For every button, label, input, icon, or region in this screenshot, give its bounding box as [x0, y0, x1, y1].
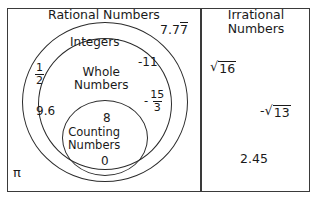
- panel-divider: [200, 8, 202, 192]
- value-neg15-3-fraction: 15 3: [149, 89, 165, 113]
- value-sqrt-sixteen-radicand: 16: [218, 61, 236, 76]
- value-sqrt-sixteen: √ 16: [210, 60, 236, 76]
- value-one-half: 1 2: [35, 62, 44, 86]
- value-negative-sqrt-thirteen-radicand: 13: [273, 105, 291, 120]
- label-irrational-numbers-line1: Irrational: [216, 8, 296, 22]
- label-counting-numbers: Counting Numbers: [68, 126, 120, 151]
- value-7p7-whole: 7.7: [160, 22, 180, 37]
- value-eight: 8: [103, 112, 111, 125]
- value-nine-point-six: 9.6: [36, 105, 55, 118]
- value-7p7-repeating-digit: 7: [180, 22, 188, 36]
- label-counting-numbers-line2: Numbers: [68, 139, 120, 152]
- number-sets-diagram: Rational Numbers Integers Whole Numbers …: [0, 0, 318, 199]
- label-counting-numbers-line1: Counting: [68, 126, 120, 139]
- value-negative-eleven: -11: [138, 56, 158, 69]
- label-rational-numbers: Rational Numbers: [48, 8, 160, 22]
- value-negative-fifteen-thirds: - 15 3: [144, 89, 165, 113]
- value-seven-point-seven-repeating: 7.77: [160, 22, 188, 37]
- value-neg15-3-denominator: 3: [153, 101, 162, 113]
- radical-sign-glyph: √: [265, 104, 273, 117]
- label-irrational-numbers-line2: Numbers: [216, 22, 296, 36]
- radical-icon: √ 13: [265, 104, 291, 120]
- value-negative-sqrt-thirteen: - √ 13: [260, 104, 291, 120]
- label-whole-numbers-line2: Numbers: [74, 79, 128, 92]
- value-zero: 0: [101, 155, 109, 168]
- label-integers: Integers: [70, 36, 119, 49]
- radical-sign-glyph: √: [210, 60, 218, 73]
- value-one-half-denominator: 2: [35, 74, 44, 86]
- label-whole-numbers: Whole Numbers: [74, 66, 128, 92]
- value-pi: π: [13, 166, 21, 180]
- value-one-half-numerator: 1: [35, 62, 44, 73]
- value-neg15-3-numerator: 15: [149, 89, 165, 100]
- label-irrational-numbers: Irrational Numbers: [216, 8, 296, 36]
- radical-icon: √ 16: [210, 60, 236, 76]
- value-neg15-3-sign: -: [144, 94, 148, 108]
- value-two-point-four-five: 2.45: [240, 152, 268, 166]
